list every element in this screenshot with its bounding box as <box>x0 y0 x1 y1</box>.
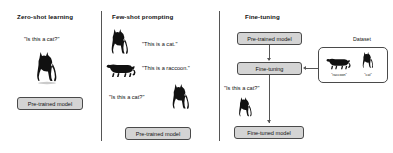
cat-sitting-icon-dataset <box>361 52 375 70</box>
panel-fine-tuning: Fine-tuning Pre-trained model Fine-tunin… <box>219 0 393 153</box>
cat-sitting-icon <box>34 52 60 85</box>
few-shot-pretrained-model-label: Pre-trained model <box>136 131 180 137</box>
arrow-finetuning-to-finetuned <box>269 75 270 123</box>
fine-tuning-pretrained-model-label: Pre-trained model <box>247 36 291 42</box>
arrow-dataset-to-finetuning <box>306 68 318 69</box>
raccoon-icon-dataset <box>326 55 351 70</box>
dataset-caption: Dataset <box>353 36 371 42</box>
fine-tuning-box-label: Fine-tuning <box>256 66 284 72</box>
arrowhead-finetuning-to-finetuned-icon <box>267 120 271 123</box>
cat-sitting-icon-query-fine <box>237 97 254 119</box>
fine-tuning-box[interactable]: Fine-tuning <box>237 62 302 75</box>
dataset-box: "raccoon" "cat" <box>318 47 388 83</box>
panel-few-shot: Few-shot prompting "This is a cat." "Thi… <box>101 0 219 153</box>
zero-shot-pretrained-model-label: Pre-trained model <box>28 101 72 107</box>
cat-sitting-icon-query <box>170 84 192 112</box>
arrowhead-pretrained-to-finetuning-icon <box>267 58 271 61</box>
few-shot-query-text: "Is this a cat?" <box>109 94 144 100</box>
fine-tuning-query-text: "Is this a cat?" <box>224 85 259 91</box>
page-title-few-shot: Few-shot prompting <box>112 13 173 20</box>
zero-shot-pretrained-model-box[interactable]: Pre-trained model <box>17 97 83 110</box>
zero-shot-query-text: "Is this a cat?" <box>24 36 59 42</box>
panel-zero-shot: Zero-shot learning "Is this a cat?" Pre-… <box>0 0 101 153</box>
raccoon-icon-example <box>106 60 136 78</box>
cat-sitting-icon-example <box>109 29 131 57</box>
fine-tuned-model-label: Fine-tuned model <box>247 130 291 136</box>
dataset-item-1-label: "raccoon" <box>324 73 354 77</box>
few-shot-pretrained-model-box[interactable]: Pre-trained model <box>125 127 191 140</box>
page-title-zero-shot: Zero-shot learning <box>17 13 73 20</box>
arrowhead-dataset-to-finetuning-icon <box>303 66 306 70</box>
few-shot-example-2-label: "This is a raccoon." <box>142 65 190 71</box>
fine-tuned-model-box[interactable]: Fine-tuned model <box>234 126 304 139</box>
few-shot-example-1-label: "This is a cat." <box>142 41 177 47</box>
figure-root: Zero-shot learning "Is this a cat?" Pre-… <box>0 0 393 153</box>
fine-tuning-pretrained-model-box[interactable]: Pre-trained model <box>237 32 302 45</box>
dataset-item-2-label: "cat" <box>355 73 381 77</box>
page-title-fine-tuning: Fine-tuning <box>245 13 280 20</box>
